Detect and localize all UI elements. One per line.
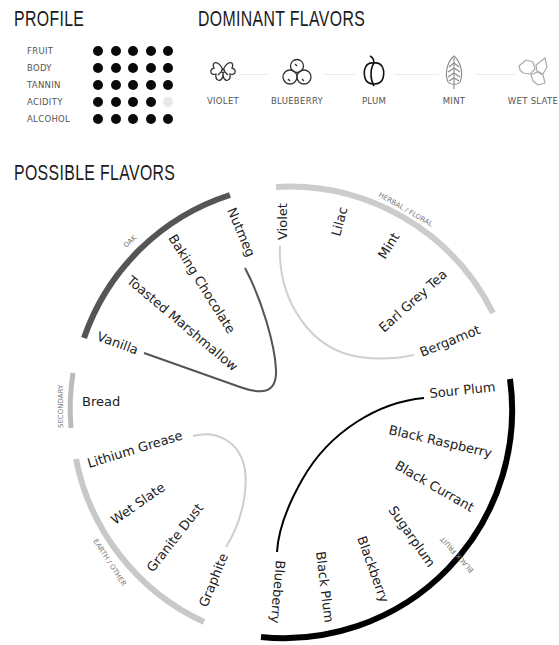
group-secondary: SECONDARY Bread — [57, 373, 120, 428]
group-herbal-floral: HERBAL / FLORAL Violet Lilac Mint Earl G… — [275, 187, 493, 360]
flavor-label[interactable]: Sugarplum — [386, 503, 439, 570]
flavor-label[interactable]: Granite Dust — [144, 501, 207, 575]
herbal-connector — [280, 246, 414, 358]
flavor-label[interactable]: Sour Plum — [429, 379, 496, 401]
group-black-fruit: BLACK FRUIT Sour Plum Black Raspberry Bl… — [261, 379, 512, 638]
oak-arc — [84, 195, 230, 338]
flavor-label[interactable]: Black Currant — [393, 458, 477, 515]
flavor-label[interactable]: Black Raspberry — [387, 422, 493, 460]
flavor-label[interactable]: Blackberry — [354, 534, 392, 605]
flavor-label[interactable]: Bergamot — [418, 322, 483, 360]
group-earth-other: EARTH / OTHER Lithium Grease Wet Slate G… — [76, 428, 246, 622]
secondary-arc — [70, 373, 73, 428]
flavor-label[interactable]: Lilac — [328, 205, 350, 237]
earth-connector — [193, 434, 246, 547]
flavor-label[interactable]: Lithium Grease — [85, 428, 184, 471]
flavor-label[interactable]: Blueberry — [267, 560, 287, 625]
flavor-label[interactable]: Earl Grey Tea — [376, 267, 450, 336]
flavor-label[interactable]: Violet — [275, 203, 290, 240]
flavor-label[interactable]: Bread — [82, 394, 120, 409]
flavor-label[interactable]: Wet Slate — [108, 479, 168, 527]
group-oak: OAK Nutmeg Baking Chocolate Toasted Mars… — [84, 195, 276, 391]
flavor-label[interactable]: Graphite — [196, 551, 231, 609]
flavor-wheel: OAK Nutmeg Baking Chocolate Toasted Mars… — [0, 0, 559, 645]
flavor-label[interactable]: Vanilla — [95, 329, 140, 358]
flavor-label[interactable]: Black Plum — [313, 551, 337, 624]
flavor-label[interactable]: Nutmeg — [224, 205, 258, 259]
oak-group-label: OAK — [122, 233, 139, 249]
secondary-group-label: SECONDARY — [57, 384, 65, 428]
flavor-label[interactable]: Mint — [375, 230, 403, 262]
